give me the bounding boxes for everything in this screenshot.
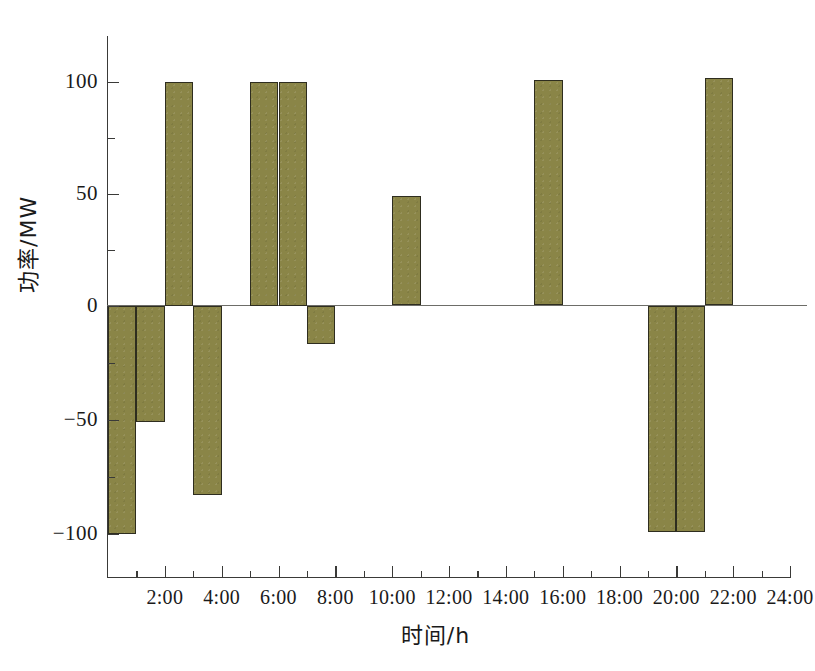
y-tick-label: 50 [76,183,98,204]
x-tick-label: 8:00 [317,586,354,608]
y-axis-title: 功率/MW [17,263,41,293]
y-tick-minor [108,477,115,478]
x-axis-title: 时间/h [0,624,815,648]
y-tick-label: −50 [64,409,98,430]
x-tick-label: 14:00 [482,586,529,608]
x-tick-label: 2:00 [146,586,183,608]
x-tick-minor [364,571,365,578]
x-tick-label: 24:00 [766,586,813,608]
x-tick-label: 10:00 [369,586,416,608]
y-tick-major [108,194,119,195]
x-tick-label: 16:00 [539,586,586,608]
x-tick-minor [762,571,763,578]
x-tick-major [563,566,564,578]
bar [250,82,278,306]
x-tick-label: 20:00 [653,586,700,608]
x-tick-minor [421,571,422,578]
x-tick-minor [250,571,251,578]
x-tick-label: 12:00 [425,586,472,608]
x-tick-minor [648,571,649,578]
x-tick-major [620,566,621,578]
y-tick-major [108,420,119,421]
y-tick-minor [108,138,115,139]
x-tick-major [790,566,791,578]
x-tick-minor [534,571,535,578]
y-tick-major [108,306,119,307]
x-tick-major [676,566,677,578]
x-tick-label: 4:00 [203,586,240,608]
y-tick-label: 100 [65,71,98,92]
x-tick-major [165,566,166,578]
bar [676,306,704,532]
bar [307,306,335,345]
x-tick-label: 22:00 [710,586,757,608]
y-tick-minor [108,363,115,364]
x-tick-minor [307,571,308,578]
x-tick-major [222,566,223,578]
bar [165,82,193,306]
y-tick-label: −100 [53,523,98,544]
x-tick-major [733,566,734,578]
x-tick-minor [705,571,706,578]
plot-area: 100500−50−100 2:004:006:008:0010:0012:00… [0,0,815,671]
bar [136,306,164,423]
y-tick-major [108,534,119,535]
y-tick-minor [108,250,115,251]
bar [648,306,676,532]
bar [534,80,562,306]
y-tick-label: 0 [87,295,98,316]
x-tick-major [449,566,450,578]
bar [193,306,221,496]
chart-figure: 100500−50−100 2:004:006:008:0010:0012:00… [0,0,815,671]
bar [392,196,420,306]
x-tick-major [335,566,336,578]
x-tick-label: 18:00 [596,586,643,608]
x-tick-major [279,566,280,578]
x-tick-minor [193,571,194,578]
x-tick-major [506,566,507,578]
bar [705,78,733,306]
y-tick-major [108,82,119,83]
bar [279,82,307,306]
x-tick-minor [136,571,137,578]
x-tick-minor [591,571,592,578]
x-tick-major [392,566,393,578]
x-tick-minor [477,571,478,578]
x-tick-label: 6:00 [260,586,297,608]
